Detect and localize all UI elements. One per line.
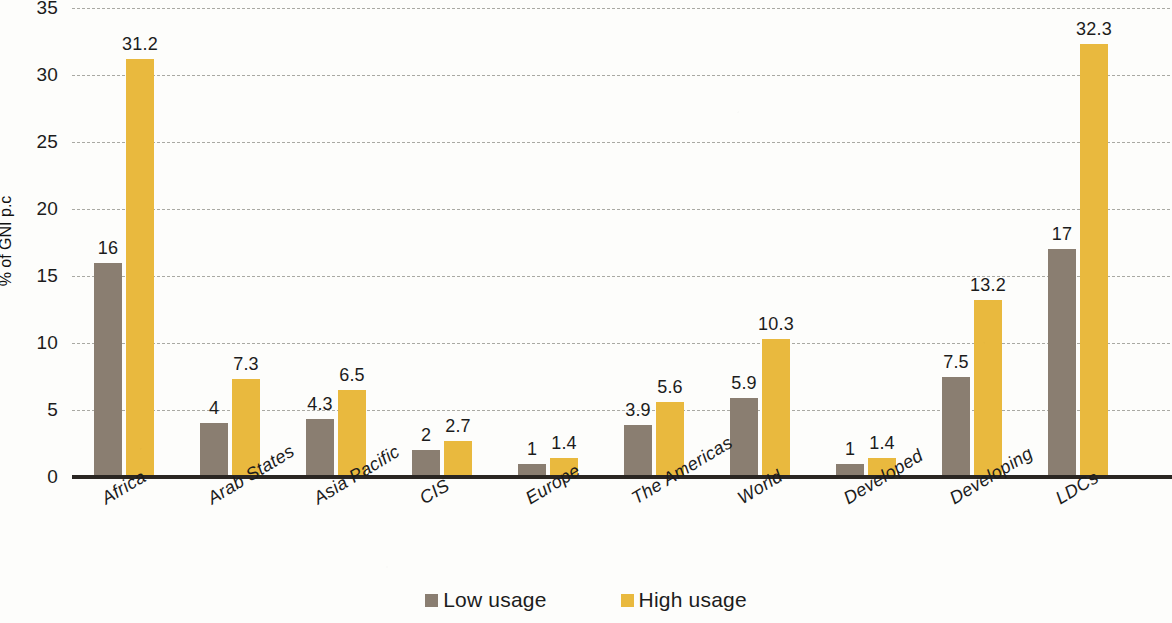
bar-value-label: 31.2 — [116, 34, 164, 55]
bar-low — [730, 398, 758, 477]
bar-group: 11.4 — [518, 8, 580, 477]
bar-value-label: 5.9 — [720, 373, 768, 394]
bar-group: 22.7 — [412, 8, 474, 477]
x-axis-category-labels: AfricaArab StatesAsia PacificCISEuropeTh… — [72, 477, 1170, 587]
bar-value-label: 5.6 — [646, 377, 694, 398]
bar-high — [126, 59, 154, 477]
legend-item[interactable]: Low usage — [425, 588, 546, 612]
y-tick-label-15: 15 — [36, 265, 58, 287]
bar-group: 47.3 — [200, 8, 262, 477]
bar-value-label: 2.7 — [434, 416, 482, 437]
bar-value-label: 13.2 — [964, 275, 1012, 296]
legend-label: High usage — [639, 588, 747, 612]
bar-low — [624, 425, 652, 477]
y-tick-label-30: 30 — [36, 64, 58, 86]
x-label-cis: CIS — [416, 475, 453, 509]
bar-low — [942, 377, 970, 478]
bar-high — [1080, 44, 1108, 477]
y-tick-label-0: 0 — [47, 466, 58, 488]
bar-value-label: 4 — [190, 398, 238, 419]
bar-group: 3.95.6 — [624, 8, 686, 477]
legend-item[interactable]: High usage — [621, 588, 747, 612]
legend-label: Low usage — [443, 588, 546, 612]
bar-group: 7.513.2 — [942, 8, 1004, 477]
bar-group: 11.4 — [836, 8, 898, 477]
bar-value-label: 1.4 — [540, 433, 588, 454]
bar-value-label: 10.3 — [752, 314, 800, 335]
bar-high — [444, 441, 472, 477]
bar-value-label: 7.5 — [932, 352, 980, 373]
bar-value-label: 7.3 — [222, 354, 270, 375]
chart-legend: Low usageHigh usage — [0, 588, 1172, 612]
bar-group: 5.910.3 — [730, 8, 792, 477]
bar-group: 1732.3 — [1048, 8, 1110, 477]
bar-low — [200, 423, 228, 477]
bar-value-label: 16 — [84, 238, 132, 259]
plot-area: 1631.247.34.36.522.711.43.95.65.910.311.… — [72, 8, 1170, 477]
bar-value-label: 3.9 — [614, 400, 662, 421]
bar-value-label: 4.3 — [296, 394, 344, 415]
bar-value-label: 17 — [1038, 224, 1086, 245]
y-tick-label-35: 35 — [36, 0, 58, 19]
y-tick-label-20: 20 — [36, 198, 58, 220]
legend-swatch-icon — [425, 594, 438, 607]
bar-group: 1631.2 — [94, 8, 156, 477]
bar-low — [1048, 249, 1076, 477]
bar-high — [974, 300, 1002, 477]
chart-figure: % of GNI p.c 05101520253035 1631.247.34.… — [0, 0, 1172, 623]
y-tick-label-10: 10 — [36, 332, 58, 354]
bar-value-label: 6.5 — [328, 365, 376, 386]
bar-high — [762, 339, 790, 477]
bar-low — [306, 419, 334, 477]
y-tick-label-25: 25 — [36, 131, 58, 153]
legend-swatch-icon — [621, 594, 634, 607]
bar-value-label: 32.3 — [1070, 19, 1118, 40]
y-axis-tick-labels: 05101520253035 — [0, 0, 72, 477]
bar-group: 4.36.5 — [306, 8, 368, 477]
bar-low — [94, 263, 122, 477]
bar-low — [412, 450, 440, 477]
y-tick-label-5: 5 — [47, 399, 58, 421]
bar-series-container: 1631.247.34.36.522.711.43.95.65.910.311.… — [72, 8, 1170, 477]
bar-value-label: 1.4 — [858, 433, 906, 454]
